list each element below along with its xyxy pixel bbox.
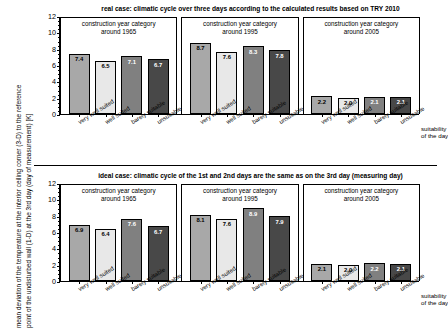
- bar-value-label: 8.1: [191, 217, 210, 223]
- chart-panel-ideal-case: ideal case: climatic cycle of the 1st an…: [34, 172, 443, 332]
- y-axis-tick-label: 10: [48, 30, 56, 37]
- x-axis-tick: [280, 114, 281, 117]
- bar-value-label: 2.2: [312, 99, 331, 105]
- group-title: construction year categoryaround 1995: [182, 20, 297, 35]
- x-axis-caption-line2: of the day: [421, 132, 448, 139]
- bar[interactable]: 7.4: [69, 54, 90, 114]
- y-axis-tick: [57, 282, 61, 283]
- y-axis-tick-label: 8: [52, 213, 56, 220]
- bar-value-label: 8.3: [244, 49, 263, 55]
- group-title-line1: construction year category: [182, 187, 297, 195]
- chart-title: ideal case: climatic cycle of the 1st an…: [58, 172, 443, 179]
- y-axis-tick-label: 12: [48, 13, 56, 20]
- bar-value-label: 2.1: [365, 99, 384, 105]
- group-title-line1: construction year category: [304, 187, 419, 195]
- group-title-line2: around 1995: [182, 195, 297, 203]
- bar-value-label: 6.4: [96, 231, 115, 237]
- y-axis-tick-label: 2: [52, 262, 56, 269]
- bar[interactable]: 7.1: [121, 56, 142, 114]
- bar-value-label: 6.7: [149, 229, 168, 235]
- bar[interactable]: 7.6: [121, 219, 142, 281]
- x-axis-caption: suitabilityof the day: [421, 292, 448, 307]
- x-axis-tick: [280, 281, 281, 284]
- group-title-line2: around 1965: [61, 28, 176, 36]
- y-axis-tick-label: 8: [52, 46, 56, 53]
- bar-value-label: 7.4: [70, 56, 89, 62]
- bar-value-label: 7.6: [122, 221, 141, 227]
- bar[interactable]: 8.3: [243, 46, 264, 114]
- chart-panel-real-case: real case: climatic cycle over three day…: [34, 5, 443, 165]
- group-title-line2: around 2005: [304, 195, 419, 203]
- group-title: construction year categoryaround 2005: [304, 20, 419, 35]
- x-axis-tick: [322, 281, 323, 284]
- bar-value-label: 2.1: [312, 266, 331, 272]
- x-axis-tick: [132, 114, 133, 117]
- x-axis-caption-line2: of the day: [421, 299, 448, 306]
- group-title: construction year categoryaround 1965: [61, 20, 176, 35]
- group-title-line2: around 1965: [61, 195, 176, 203]
- y-axis-tick-label: 4: [52, 79, 56, 86]
- bar[interactable]: 8.9: [243, 208, 264, 281]
- bar-value-label: 7.9: [270, 219, 289, 225]
- group-title-line1: construction year category: [304, 20, 419, 28]
- bar[interactable]: 2.2: [311, 96, 332, 114]
- x-axis-tick: [401, 114, 402, 117]
- group-title-line1: construction year category: [182, 20, 297, 28]
- bar-value-label: 8.7: [191, 45, 210, 51]
- group-title: construction year categoryaround 1995: [182, 187, 297, 202]
- bar[interactable]: 2.1: [311, 264, 332, 281]
- group-title-line1: construction year category: [61, 187, 176, 195]
- group-title: construction year categoryaround 2005: [304, 187, 419, 202]
- y-axis-tick-label: 0: [52, 111, 56, 118]
- x-axis-tick: [322, 114, 323, 117]
- chart-title: real case: climatic cycle over three day…: [58, 5, 443, 12]
- bar[interactable]: 6.9: [69, 225, 90, 281]
- y-axis-tick-label: 6: [52, 229, 56, 236]
- y-axis-label-line1: mean deviation of the temperature at the…: [15, 85, 22, 328]
- bar-value-label: 7.1: [122, 59, 141, 65]
- bar[interactable]: 8.1: [190, 215, 211, 281]
- x-axis-tick: [106, 281, 107, 284]
- bar-value-label: 2.2: [365, 266, 384, 272]
- bar-value-label: 6.7: [149, 62, 168, 68]
- bar[interactable]: 8.7: [190, 43, 211, 114]
- x-axis-tick: [375, 114, 376, 117]
- x-axis-caption: suitabilityof the day: [421, 125, 448, 140]
- y-axis-tick-label: 6: [52, 62, 56, 69]
- bar-value-label: 8.9: [244, 211, 263, 217]
- group-title: construction year categoryaround 1965: [61, 187, 176, 202]
- y-axis-tick-label: 10: [48, 197, 56, 204]
- x-axis-tick: [227, 114, 228, 117]
- group-title-line2: around 2005: [304, 28, 419, 36]
- group-title-line2: around 1995: [182, 28, 297, 36]
- x-axis-tick: [132, 281, 133, 284]
- group-title-line1: construction year category: [61, 20, 176, 28]
- x-axis-tick: [201, 114, 202, 117]
- x-axis-tick: [201, 281, 202, 284]
- y-axis-tick-label: 0: [52, 278, 56, 285]
- bar-value-label: 7.8: [270, 53, 289, 59]
- y-axis-tick-label: 2: [52, 95, 56, 102]
- y-axis-tick-label: 12: [48, 180, 56, 187]
- x-axis-tick: [401, 281, 402, 284]
- y-axis-tick-label: 4: [52, 246, 56, 253]
- bar-value-label: 6.9: [70, 227, 89, 233]
- x-axis-caption-line1: suitability: [421, 292, 448, 299]
- y-axis-tick: [57, 115, 61, 116]
- panel-divider: [34, 165, 437, 166]
- y-axis-label: mean deviation of the temperature at the…: [0, 0, 34, 335]
- bar-value-label: 7.6: [217, 54, 236, 60]
- x-axis-tick: [227, 281, 228, 284]
- bar-value-label: 6.5: [96, 63, 115, 69]
- x-axis-tick: [375, 281, 376, 284]
- x-axis-tick: [106, 114, 107, 117]
- bar-value-label: 7.6: [217, 221, 236, 227]
- y-axis-label-line2: point of the undisturbed wall (1-D) at t…: [25, 114, 32, 328]
- x-axis-caption-line1: suitability: [421, 125, 448, 132]
